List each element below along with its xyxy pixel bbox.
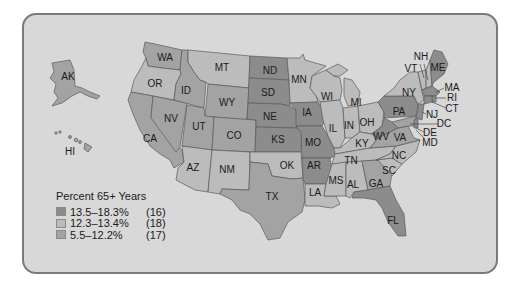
legend-count: (17) xyxy=(146,229,166,241)
label-MO: MO xyxy=(305,137,321,148)
us-choropleth-map: AK HI WA OR CA ID NV MT WY UT CO AZ NM N… xyxy=(0,0,520,289)
label-MD: MD xyxy=(422,137,438,148)
label-SC: SC xyxy=(382,165,396,176)
label-AR: AR xyxy=(307,160,321,171)
legend-swatch-low xyxy=(56,230,66,239)
legend-range: 12.3–13.4% xyxy=(70,217,146,229)
label-OH: OH xyxy=(360,117,375,128)
label-ID: ID xyxy=(181,85,191,96)
legend-title: Percent 65+ Years xyxy=(56,190,166,202)
label-WV: WV xyxy=(373,131,389,142)
state-FL xyxy=(352,186,406,236)
label-SD: SD xyxy=(261,87,275,98)
label-NY: NY xyxy=(402,87,416,98)
label-NM: NM xyxy=(219,164,235,175)
label-WI: WI xyxy=(321,91,333,102)
label-OR: OR xyxy=(148,78,163,89)
label-IN: IN xyxy=(344,120,354,131)
state-DE xyxy=(414,118,418,128)
legend-swatch-mid xyxy=(56,219,66,228)
label-KY: KY xyxy=(355,138,369,149)
label-NC: NC xyxy=(392,150,406,161)
label-RI: RI xyxy=(447,92,457,103)
label-PA: PA xyxy=(393,106,406,117)
label-MS: MS xyxy=(329,175,344,186)
label-WA: WA xyxy=(157,52,173,63)
legend-range: 5.5–12.2% xyxy=(70,229,146,241)
label-LA: LA xyxy=(309,187,322,198)
label-WY: WY xyxy=(219,97,235,108)
state-AK xyxy=(50,60,100,106)
legend: Percent 65+ Years 13.5–18.3% (16) 12.3–1… xyxy=(56,190,166,241)
label-VA: VA xyxy=(394,132,407,143)
label-ME: ME xyxy=(431,62,446,73)
label-ND: ND xyxy=(263,65,277,76)
legend-item-mid: 12.3–13.4% (18) xyxy=(56,218,166,230)
legend-swatch-high xyxy=(56,207,66,216)
label-TN: TN xyxy=(344,155,357,166)
label-CA: CA xyxy=(143,133,157,144)
label-IL: IL xyxy=(329,123,338,134)
label-AZ: AZ xyxy=(187,162,200,173)
label-FL: FL xyxy=(387,215,399,226)
label-VT: VT xyxy=(405,63,418,74)
label-NH: NH xyxy=(414,51,428,62)
label-OK: OK xyxy=(280,160,295,171)
label-TX: TX xyxy=(266,191,279,202)
legend-item-high: 13.5–18.3% (16) xyxy=(56,206,166,218)
label-GA: GA xyxy=(369,178,384,189)
label-HI: HI xyxy=(65,146,75,157)
label-CO: CO xyxy=(227,130,242,141)
legend-count: (18) xyxy=(146,217,166,229)
label-MN: MN xyxy=(291,74,307,85)
label-DC: DC xyxy=(437,118,451,129)
label-KS: KS xyxy=(271,134,285,145)
label-CT: CT xyxy=(445,103,458,114)
state-CT xyxy=(424,96,432,104)
label-AL: AL xyxy=(347,179,360,190)
label-MT: MT xyxy=(215,62,229,73)
label-MI: MI xyxy=(350,97,361,108)
label-UT: UT xyxy=(192,121,205,132)
label-NV: NV xyxy=(164,113,178,124)
label-AK: AK xyxy=(61,71,75,82)
state-RI xyxy=(432,96,436,102)
legend-count: (16) xyxy=(146,206,166,218)
legend-range: 13.5–18.3% xyxy=(70,206,146,218)
legend-item-low: 5.5–12.2% (17) xyxy=(56,229,166,241)
label-IA: IA xyxy=(302,107,312,118)
label-NE: NE xyxy=(263,111,277,122)
